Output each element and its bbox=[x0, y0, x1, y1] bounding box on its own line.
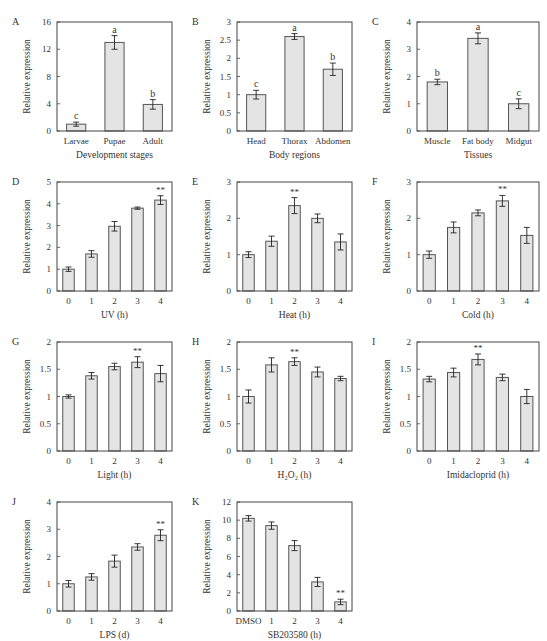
y-axis-label: Relative expression bbox=[202, 519, 212, 594]
x-tick-label: Muscle bbox=[424, 136, 451, 146]
bar bbox=[243, 255, 255, 291]
y-tick-label: 0 bbox=[227, 286, 232, 296]
bar bbox=[423, 255, 435, 291]
y-tick-label: 0 bbox=[407, 446, 412, 456]
y-tick-label: 4 bbox=[47, 497, 52, 507]
x-axis-label: UV (h) bbox=[101, 310, 128, 320]
bar bbox=[86, 254, 98, 291]
x-axis-label: Tissues bbox=[464, 150, 492, 160]
bar bbox=[312, 218, 324, 291]
panel-letter: H bbox=[192, 336, 199, 347]
panel-letter: C bbox=[372, 16, 379, 27]
bar bbox=[243, 518, 255, 611]
y-tick-label: 5 bbox=[47, 177, 52, 187]
bar bbox=[423, 379, 435, 451]
bar bbox=[289, 546, 301, 611]
x-tick-label: 2 bbox=[292, 456, 297, 466]
bar bbox=[289, 206, 301, 291]
bar bbox=[285, 37, 304, 131]
bar bbox=[243, 397, 255, 452]
y-tick-label: 2 bbox=[407, 213, 412, 223]
bar bbox=[155, 535, 167, 611]
x-axis-label: H₂O₂ (h) bbox=[278, 470, 312, 480]
y-tick-label: 1 bbox=[407, 392, 412, 402]
significance-label: ** bbox=[336, 588, 346, 598]
significance-label: b bbox=[435, 67, 440, 78]
x-tick-label: 1 bbox=[269, 616, 274, 626]
y-tick-label: 1.5 bbox=[400, 364, 412, 374]
y-tick-label: 4 bbox=[47, 99, 52, 109]
y-tick-label: 1.5 bbox=[40, 364, 52, 374]
y-tick-label: 2 bbox=[47, 552, 52, 562]
panel-b-body-regions: B00.511.522.53Relative expressioncHeadaT… bbox=[180, 0, 360, 160]
bar-chart: E0123Relative expression01**234Heat (h) bbox=[180, 160, 360, 320]
x-tick-label: 3 bbox=[315, 456, 320, 466]
y-tick-label: 1 bbox=[407, 250, 412, 260]
x-tick-label: Larvae bbox=[64, 136, 89, 146]
bar bbox=[468, 38, 488, 131]
y-tick-label: 2 bbox=[227, 337, 232, 347]
bar-chart: J01234Relative expression0123**4LPS (d) bbox=[0, 480, 180, 641]
bar-chart: G00.511.52Relative expression012**34Ligh… bbox=[0, 320, 180, 480]
y-tick-label: 0 bbox=[47, 606, 52, 616]
x-tick-label: 4 bbox=[525, 296, 530, 306]
x-tick-label: 2 bbox=[476, 456, 481, 466]
panel-h-h2o2: H00.511.52Relative expression01**234H₂O₂… bbox=[180, 320, 360, 480]
y-tick-label: 2 bbox=[407, 337, 412, 347]
bar-chart: C01234Relative expressionbMuscleaFat bod… bbox=[360, 0, 547, 160]
x-tick-label: 4 bbox=[525, 456, 530, 466]
y-tick-label: 3 bbox=[227, 17, 232, 27]
y-tick-label: 0 bbox=[407, 286, 412, 296]
panel-f-cold: F0123Relative expression012**34Cold (h) bbox=[360, 160, 547, 320]
bar bbox=[521, 397, 533, 452]
bar bbox=[448, 373, 460, 451]
significance-label: c bbox=[254, 78, 259, 89]
significance-label: c bbox=[74, 110, 79, 121]
bar bbox=[155, 374, 167, 451]
y-tick-label: 4 bbox=[227, 570, 232, 580]
significance-label: ** bbox=[498, 184, 508, 194]
x-tick-label: 4 bbox=[338, 296, 343, 306]
x-tick-label: 0 bbox=[66, 616, 71, 626]
x-tick-label: 2 bbox=[112, 616, 117, 626]
x-tick-label: 3 bbox=[135, 616, 140, 626]
y-tick-label: 0 bbox=[227, 446, 232, 456]
y-tick-label: 1 bbox=[47, 264, 52, 274]
y-axis-label: Relative expression bbox=[22, 359, 32, 434]
x-tick-label: 1 bbox=[451, 456, 456, 466]
panel-letter: D bbox=[12, 176, 19, 187]
y-axis-label: Relative expression bbox=[202, 199, 212, 274]
y-tick-label: 8 bbox=[227, 533, 232, 543]
bar bbox=[105, 42, 124, 131]
y-tick-label: 0.5 bbox=[220, 108, 232, 118]
x-tick-label: 1 bbox=[451, 296, 456, 306]
bar bbox=[132, 547, 144, 611]
y-tick-label: 1 bbox=[227, 250, 232, 260]
x-tick-label: Fat body bbox=[462, 136, 494, 146]
x-tick-label: Pupae bbox=[104, 136, 126, 146]
y-tick-label: 2 bbox=[47, 337, 52, 347]
panel-letter: F bbox=[372, 176, 378, 187]
bar bbox=[109, 226, 121, 291]
x-axis-label: Imidacloprid (h) bbox=[447, 470, 510, 480]
x-axis-label: LPS (d) bbox=[100, 630, 130, 641]
y-axis-label: Relative expression bbox=[22, 519, 32, 594]
x-axis-label: Light (h) bbox=[97, 470, 131, 480]
x-tick-label: Thorax bbox=[282, 136, 308, 146]
significance-label: a bbox=[112, 24, 117, 35]
significance-label: b bbox=[330, 51, 335, 62]
y-tick-label: 2 bbox=[227, 588, 232, 598]
x-tick-label: 3 bbox=[500, 296, 505, 306]
x-tick-label: 4 bbox=[338, 616, 343, 626]
x-tick-label: 3 bbox=[315, 616, 320, 626]
y-axis-label: Relative expression bbox=[202, 39, 212, 114]
y-tick-label: 3 bbox=[47, 221, 52, 231]
significance-label: ** bbox=[290, 347, 300, 357]
y-tick-label: 6 bbox=[227, 552, 232, 562]
bar bbox=[496, 201, 508, 291]
y-axis-label: Relative expression bbox=[202, 359, 212, 434]
bar-chart: A0481216Relative expressioncLarvaeaPupae… bbox=[0, 0, 180, 160]
y-axis-label: Relative expression bbox=[382, 39, 392, 114]
y-tick-label: 8 bbox=[47, 72, 52, 82]
bar bbox=[335, 379, 347, 451]
